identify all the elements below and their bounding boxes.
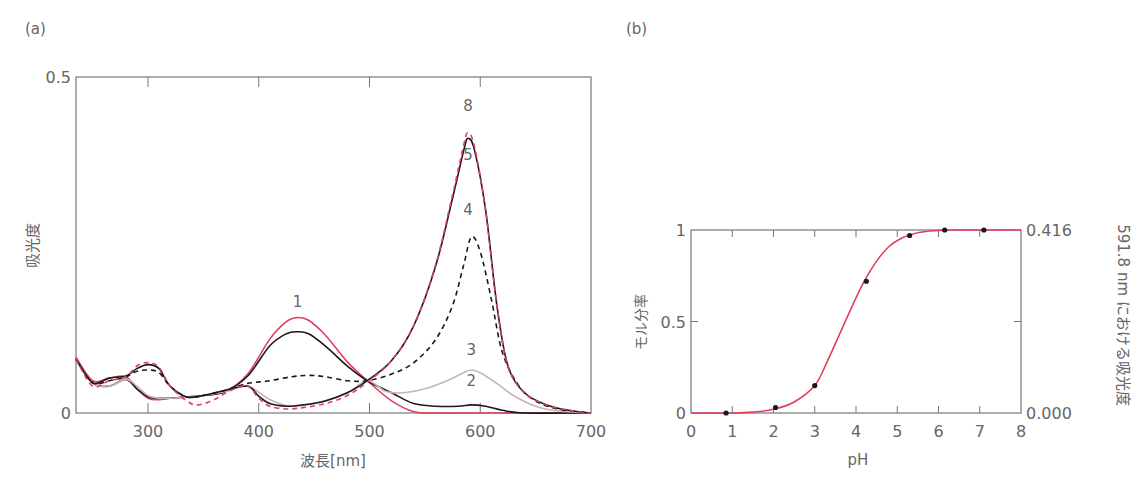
plot-frame-a: [76, 77, 591, 413]
x-tick-label: 700: [576, 422, 607, 441]
y-axis-title-a: 吸光度: [24, 223, 42, 268]
data-point: [723, 410, 728, 415]
y-tick-label-right: 0.416: [1026, 221, 1072, 240]
x-tick-label: 8: [1016, 422, 1026, 441]
data-point: [942, 227, 947, 232]
y-tick-label: 0: [61, 404, 71, 423]
axis-ticks-b: 01234567800.510.0000.416: [661, 221, 1072, 441]
x-tick-label: 4: [851, 422, 861, 441]
x-tick-label: 300: [133, 422, 164, 441]
y-tick-label-left: 1: [676, 221, 686, 240]
panel-a-label: (a): [25, 20, 46, 38]
x-tick-label: 0: [686, 422, 696, 441]
curve-4: [76, 236, 591, 413]
data-point: [981, 227, 986, 232]
figure: (a) (b) 30040050060070000.5 185432 波長[nm…: [0, 0, 1134, 482]
y-tick-label: 0.5: [46, 68, 71, 87]
data-point: [864, 279, 869, 284]
x-tick-label: 2: [768, 422, 778, 441]
y-tick-label-right: 0.000: [1026, 404, 1072, 423]
fit-curve: [691, 230, 1021, 413]
curve-label: 4: [463, 201, 473, 219]
curve-label: 3: [467, 341, 477, 359]
x-axis-title-b: pH: [848, 451, 869, 469]
x-axis-title-a: 波長[nm]: [300, 452, 366, 470]
data-points: [723, 227, 986, 415]
x-axis-ticks-a: 30040050060070000.5: [46, 68, 607, 441]
data-point: [773, 405, 778, 410]
panel-b-label: (b): [626, 20, 647, 38]
data-point: [812, 383, 817, 388]
curve-labels: 185432: [293, 97, 476, 390]
x-tick-label: 400: [243, 422, 274, 441]
y-axis-title-b-right: 591.8 nm における吸光度: [1114, 224, 1132, 406]
y-tick-label-left: 0.5: [661, 313, 686, 332]
x-tick-label: 600: [465, 422, 496, 441]
spectrum-curves: [76, 133, 591, 413]
x-tick-label: 1: [727, 422, 737, 441]
curve-label: 5: [463, 146, 473, 164]
plot-frame-b: [691, 230, 1021, 413]
mole-fraction-chart: 01234567800.510.0000.416 pH モル分率 591.8 n…: [633, 221, 1132, 469]
x-tick-label: 6: [933, 422, 943, 441]
data-point: [907, 233, 912, 238]
sigmoid-fit: [691, 230, 1021, 413]
y-tick-label-left: 0: [676, 404, 686, 423]
curve-5: [76, 138, 591, 413]
x-tick-label: 3: [810, 422, 820, 441]
curve-label: 8: [463, 97, 473, 115]
y-axis-title-b-left: モル分率: [633, 294, 649, 350]
absorbance-spectrum-chart: 30040050060070000.5 185432 波長[nm] 吸光度: [24, 68, 606, 470]
x-tick-label: 7: [975, 422, 985, 441]
curve-label: 2: [467, 372, 477, 390]
curve-3: [76, 359, 591, 413]
x-tick-label: 500: [354, 422, 385, 441]
x-tick-label: 5: [892, 422, 902, 441]
curve-label: 1: [293, 293, 303, 311]
